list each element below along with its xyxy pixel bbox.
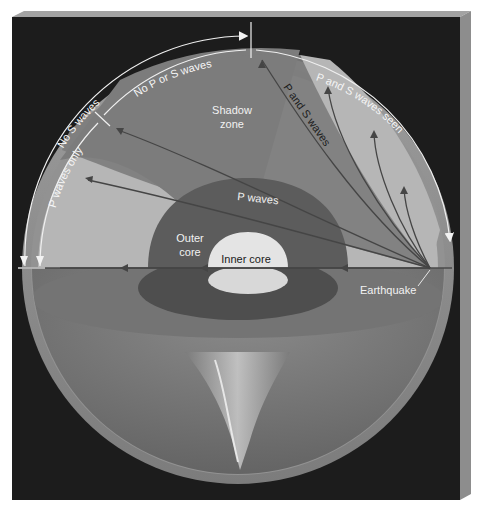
panel-bevel-top bbox=[12, 11, 471, 17]
label-outer-core-1: Outer bbox=[176, 232, 204, 244]
label-shadow-zone-2: zone bbox=[220, 118, 244, 130]
label-inner-core: Inner core bbox=[221, 253, 271, 265]
earth-seismic-diagram: P waves only No S waves No P or S waves … bbox=[0, 0, 485, 505]
panel-bevel-side bbox=[460, 11, 471, 500]
label-outer-core-2: core bbox=[179, 246, 200, 258]
label-earthquake: Earthquake bbox=[360, 284, 416, 296]
label-shadow-zone-1: Shadow bbox=[212, 104, 252, 116]
